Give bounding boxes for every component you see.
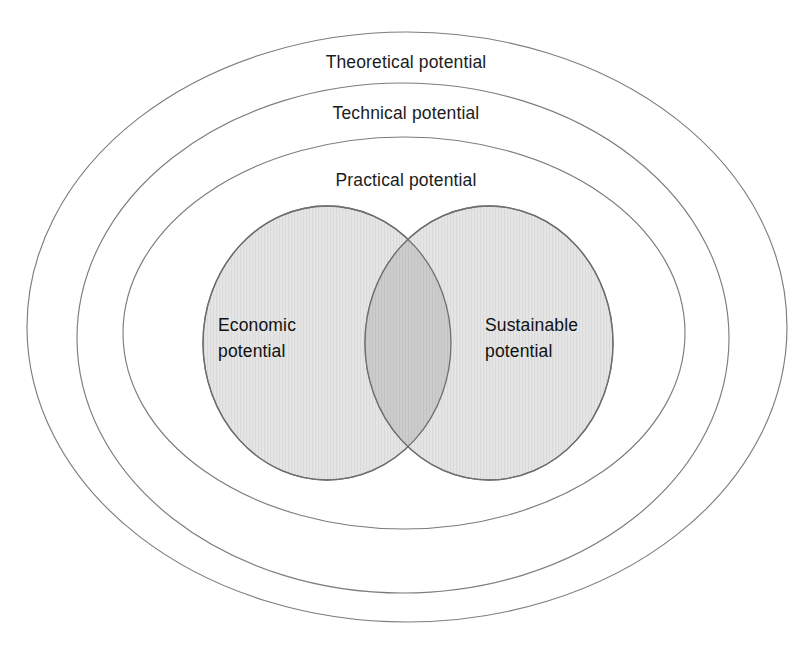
ring-theoretical-label: Theoretical potential: [326, 52, 487, 72]
venn-economic-label-line2: potential: [218, 341, 286, 361]
venn-sustainable-label-line1: Sustainable: [485, 315, 578, 335]
venn-sustainable-label-line2: potential: [485, 341, 553, 361]
diagram-root: Theoretical potential Technical potentia…: [0, 0, 810, 645]
venn-economic-label-line1: Economic: [218, 315, 296, 335]
potential-ellipses-diagram: Theoretical potential Technical potentia…: [0, 0, 810, 645]
ring-technical-label: Technical potential: [333, 103, 480, 123]
ring-practical-label: Practical potential: [336, 170, 477, 190]
